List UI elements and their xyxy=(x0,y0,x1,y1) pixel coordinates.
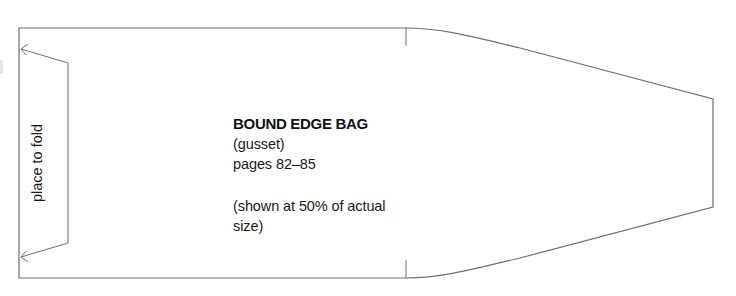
pattern-pages: pages 82–85 xyxy=(233,154,385,174)
spacer xyxy=(233,174,385,196)
pattern-subtitle: (gusset) xyxy=(233,134,385,154)
fold-arrow-top-icon xyxy=(21,44,28,55)
pattern-label-block: BOUND EDGE BAG (gusset) pages 82–85 (sho… xyxy=(233,114,385,236)
fold-arrow-bottom-icon xyxy=(21,251,28,262)
scale-note-line2: size) xyxy=(233,216,385,236)
pattern-title: BOUND EDGE BAG xyxy=(233,114,385,134)
fold-label: place to fold xyxy=(29,124,45,202)
scale-note-line1: (shown at 50% of actual xyxy=(233,196,385,216)
